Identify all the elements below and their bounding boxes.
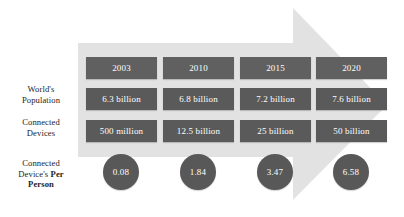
row-label-devices-per-person-bold-person: Person: [28, 179, 54, 189]
row-label-connected-devices-line2: Devices: [27, 128, 55, 138]
ratio-circle-2020: 6.58: [333, 154, 369, 190]
devices-cell-2020: 50 billion: [316, 120, 387, 142]
row-label-devices-per-person-line2: Device's: [18, 169, 50, 179]
year-cell-2010: 2010: [163, 57, 234, 79]
row-label-world-population: World's Population: [0, 84, 82, 105]
year-cell-2015: 2015: [240, 57, 311, 79]
population-cell-2003: 6.3 billion: [86, 88, 157, 110]
population-cell-2015: 7.2 billion: [240, 88, 311, 110]
row-label-world-population-line2: Population: [22, 95, 60, 105]
row-label-connected-devices: Connected Devices: [0, 117, 82, 138]
year-cell-2020: 2020: [316, 57, 387, 79]
population-cell-2020: 7.6 billion: [316, 88, 387, 110]
row-label-connected-devices-line1: Connected: [22, 117, 60, 127]
year-cell-2003: 2003: [86, 57, 157, 79]
devices-cell-2010: 12.5 billion: [163, 120, 234, 142]
ratio-circle-2010: 1.84: [180, 154, 216, 190]
row-label-devices-per-person-line1: Connected: [22, 158, 60, 168]
population-cell-2010: 6.8 billion: [163, 88, 234, 110]
iot-growth-infographic: World's Population Connected Devices Con…: [0, 0, 404, 217]
row-label-world-population-line1: World's: [28, 84, 55, 94]
devices-cell-2003: 500 million: [86, 120, 157, 142]
devices-cell-2015: 25 billion: [240, 120, 311, 142]
ratio-circle-2015: 3.47: [257, 154, 293, 190]
ratio-circle-2003: 0.08: [103, 154, 139, 190]
row-label-devices-per-person: Connected Device's Per Person: [0, 158, 82, 190]
row-label-devices-per-person-bold-per: Per: [51, 169, 64, 179]
